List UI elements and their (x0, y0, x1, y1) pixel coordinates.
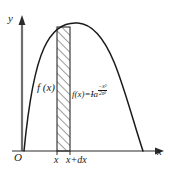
exponent-denominator: 2σ² (98, 91, 107, 97)
origin-label: O (14, 152, 22, 163)
differential-area-strip (57, 27, 70, 151)
tick-label-x-plus-dx: x+dx (66, 155, 87, 165)
x-axis-label: x (157, 146, 162, 157)
figure-container: y x O x x+dx f (x) f(x)=Ɨa−x²2σ² (0, 0, 170, 172)
y-axis-label: y (8, 13, 13, 24)
x-axis (12, 148, 164, 155)
formula-lhs: f(x)= (72, 89, 91, 99)
tick-label-x: x (54, 155, 58, 165)
formula-exponent: −x²2σ² (98, 84, 107, 97)
curve-function-label: f (x) (37, 82, 55, 93)
density-formula-label: f(x)=Ɨa−x²2σ² (72, 84, 107, 99)
y-axis (19, 15, 26, 151)
